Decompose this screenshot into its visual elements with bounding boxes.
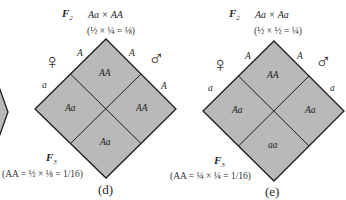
male-allele-2: a xyxy=(330,84,335,94)
cell-right: AA xyxy=(136,104,148,114)
male-allele-1: A xyxy=(129,49,135,59)
probability-top: (½ × ½ = ¼) xyxy=(254,27,302,37)
generation-label-bottom: F3 xyxy=(46,152,57,166)
cross-label: Aa × Aa xyxy=(255,10,289,20)
generation-label-top: F2 xyxy=(62,8,73,22)
male-symbol-icon: ♂ xyxy=(148,48,165,70)
female-symbol-icon: ♀ xyxy=(44,51,61,73)
probability-top: (½ × ¼ = ⅛) xyxy=(87,27,135,37)
probability-bottom: (AA = ¼ × ¼ = 1/16) xyxy=(170,172,251,182)
caption-d: (d) xyxy=(98,183,113,196)
male-symbol-icon: ♂ xyxy=(315,51,332,73)
probability-bottom: (AA = ½ × ⅛ = 1/16) xyxy=(2,170,83,180)
female-allele-2: a xyxy=(42,81,47,91)
caption-e: (e) xyxy=(265,185,279,198)
female-symbol-icon: ♀ xyxy=(212,54,229,76)
female-allele-2: a xyxy=(208,84,213,94)
cell-left: Aa xyxy=(65,104,76,114)
generation-label-top: F2 xyxy=(229,8,240,22)
male-allele-1: A xyxy=(297,52,303,62)
cell-top: AA xyxy=(99,69,111,79)
generation-label-bottom: F3 xyxy=(214,155,225,169)
cell-left: Aa xyxy=(232,106,243,116)
cell-bottom: Aa xyxy=(100,138,111,148)
cell-right: Aa xyxy=(305,106,316,116)
male-allele-2: A xyxy=(161,82,167,92)
partial-punnett-square xyxy=(0,84,8,140)
cell-bottom: aa xyxy=(268,141,278,151)
female-allele-1: A xyxy=(77,49,83,59)
cross-label: Aa × AA xyxy=(88,10,123,20)
cell-top: AA xyxy=(267,71,279,81)
female-allele-1: A xyxy=(245,52,251,62)
